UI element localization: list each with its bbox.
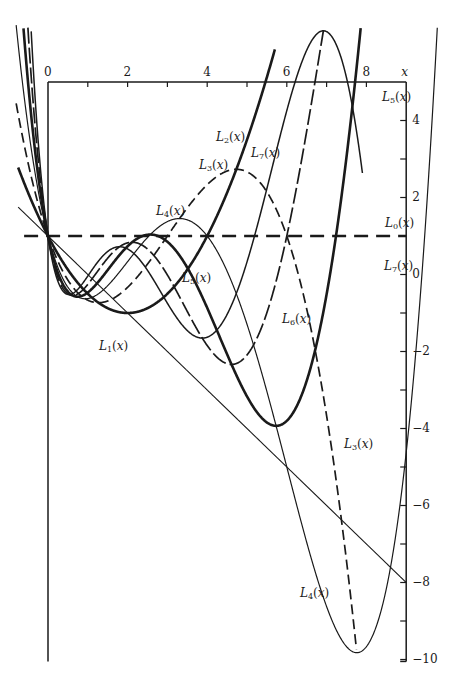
curve-L1 (18, 207, 406, 582)
y-tick-label: 4 (412, 114, 420, 126)
x-axis-label: x (401, 66, 408, 78)
x-tick-label: 6 (283, 66, 291, 78)
x-tick-label: 4 (203, 66, 211, 78)
curve-L3 (16, 103, 356, 649)
curve-label-L3: L3(x) (199, 159, 228, 173)
curve-label-L4: L4(x) (300, 587, 329, 601)
y-tick-label: −2 (412, 345, 430, 357)
curve-label-L2: L2(x) (216, 131, 245, 145)
y-tick-label: −4 (412, 422, 430, 434)
x-tick-label: 2 (124, 66, 132, 78)
curve-label-L3: L3(x) (344, 438, 373, 452)
curves (16, 25, 437, 653)
x-tick-label: 0 (44, 66, 52, 78)
curve-label-L6: L6(x) (282, 313, 311, 327)
x-tick-label: 8 (362, 66, 370, 78)
curve-L6 (28, 26, 324, 364)
y-tick-label: 2 (412, 191, 420, 203)
y-tick-label: −10 (412, 653, 437, 665)
y-tick-label: −6 (412, 499, 430, 511)
y-tick-label: 0 (412, 268, 420, 280)
curve-label-L5: L5(x) (382, 91, 411, 105)
curve-label-L1: L1(x) (99, 340, 128, 354)
curve-L4 (16, 25, 437, 653)
curve-label-L7: L7(x) (384, 260, 413, 274)
curve-label-L4: L4(x) (156, 205, 185, 219)
curve-label-L7: L7(x) (251, 147, 280, 161)
curve-label-L0: L0(x) (385, 217, 414, 231)
curve-L5 (23, 28, 360, 426)
y-tick-label: −8 (412, 576, 430, 588)
curve-label-L5: L5(x) (182, 272, 211, 286)
